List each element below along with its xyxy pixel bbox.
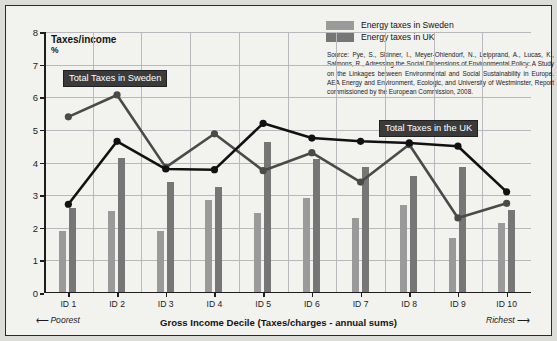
y-tick-label: 4: [14, 157, 38, 168]
data-point: [211, 166, 218, 173]
data-point: [65, 113, 72, 120]
y-tick-label: 0: [14, 288, 38, 299]
legend-swatch-sweden: [326, 21, 354, 30]
chart-frame: Taxes/income % Energy taxes in Sweden En…: [5, 5, 552, 336]
data-point: [65, 201, 72, 208]
data-point: [503, 188, 510, 195]
x-tick-mark: [458, 293, 460, 297]
x-tick-mark: [166, 293, 168, 297]
data-point: [454, 143, 461, 150]
chart-screenshot: Taxes/income % Energy taxes in Sweden En…: [0, 0, 557, 341]
arrow-right-icon: ⟶: [517, 315, 529, 325]
callout-total-taxes-sweden: Total Taxes in Sweden: [63, 70, 167, 87]
arrow-left-icon: ⟵: [36, 315, 48, 325]
y-tick-label: 8: [14, 27, 38, 38]
data-point: [260, 167, 267, 174]
legend-item-sweden: Energy taxes in Sweden: [326, 20, 454, 30]
x-tick-label: ID 1: [60, 299, 76, 309]
data-point: [406, 139, 413, 146]
callout-total-taxes-uk: Total Taxes in the UK: [379, 120, 478, 137]
x-tick-mark: [409, 293, 411, 297]
data-point: [308, 149, 315, 156]
x-tick-mark: [361, 293, 363, 297]
x-tick-mark: [214, 293, 216, 297]
x-tick-label: ID 2: [109, 299, 125, 309]
x-tick-label: ID 5: [255, 299, 271, 309]
y-tick-label: 3: [14, 190, 38, 201]
x-tick-label: ID 4: [207, 299, 223, 309]
data-point: [357, 178, 364, 185]
y-tick-mark: [40, 293, 44, 295]
x-tick-mark: [117, 293, 119, 297]
y-tick-label: 5: [14, 124, 38, 135]
data-point: [260, 120, 267, 127]
legend-label-sweden: Energy taxes in Sweden: [361, 20, 454, 30]
y-tick-label: 1: [14, 255, 38, 266]
data-point: [113, 91, 120, 98]
data-point: [308, 134, 315, 141]
x-tick-mark: [68, 293, 70, 297]
data-point: [503, 200, 510, 207]
x-tick-label: ID 6: [304, 299, 320, 309]
x-tick-mark: [507, 293, 509, 297]
x-axis-endcap-richest: Richest ⟶: [486, 315, 529, 325]
data-point: [113, 138, 120, 145]
x-tick-mark: [312, 293, 314, 297]
x-tick-label: ID 7: [353, 299, 369, 309]
y-tick-label: 7: [14, 59, 38, 70]
x-tick-label: ID 3: [158, 299, 174, 309]
richest-label: Richest: [486, 315, 515, 325]
x-tick-label: ID 8: [401, 299, 417, 309]
x-tick-mark: [263, 293, 265, 297]
x-tick-label: ID 10: [496, 299, 517, 309]
line-total-taxes-sweden: [68, 95, 506, 218]
y-axis-line: [44, 32, 46, 293]
data-point: [211, 130, 218, 137]
poorest-label: Poorest: [50, 315, 80, 325]
x-axis-endcap-poorest: ⟵ Poorest: [36, 315, 80, 325]
data-point: [454, 214, 461, 221]
data-point: [357, 138, 364, 145]
x-axis-line: [44, 292, 531, 294]
x-tick-label: ID 9: [450, 299, 466, 309]
data-point: [162, 165, 169, 172]
y-tick-label: 2: [14, 222, 38, 233]
y-tick-label: 6: [14, 92, 38, 103]
x-axis-title: Gross Income Decile (Taxes/charges - ann…: [6, 317, 551, 328]
